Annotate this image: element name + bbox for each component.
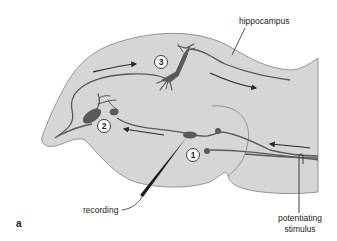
hippocampus-diagram: 1 2 3 hippocampus recording potentiating… xyxy=(0,0,337,241)
badge-3-label: 3 xyxy=(159,57,164,67)
badge-2: 2 xyxy=(98,120,111,133)
label-hippocampus: hippocampus xyxy=(239,16,290,26)
label-stimulus-line2: stimulus xyxy=(284,224,315,234)
hippocampus-pointer xyxy=(232,28,245,55)
badge-1-label: 1 xyxy=(191,150,196,160)
badge-1: 1 xyxy=(187,149,200,162)
panel-label: a xyxy=(16,218,22,229)
label-recording: recording xyxy=(83,205,119,215)
label-stimulus-line1: potentiating xyxy=(278,213,322,223)
badge-3: 3 xyxy=(155,56,168,69)
badge-2-label: 2 xyxy=(102,121,107,131)
hippocampus-tissue xyxy=(42,33,318,193)
